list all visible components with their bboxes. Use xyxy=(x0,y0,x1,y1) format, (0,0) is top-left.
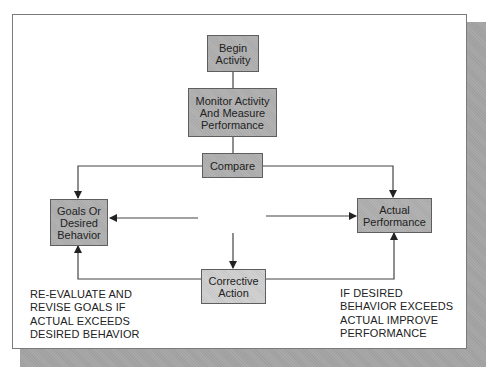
node-monitor-activity: Monitor Activity And Measure Performance xyxy=(188,88,277,137)
edge-compare-actual xyxy=(263,166,393,197)
node-corrective-action: Corrective Action xyxy=(201,269,266,304)
edge-corrective-actual xyxy=(266,233,394,279)
note-reevaluate-goals: RE-EVALUATE AND REVISE GOALS IF ACTUAL E… xyxy=(30,288,140,341)
edge-compare-goals xyxy=(78,166,202,198)
node-goals-desired-behavior: Goals Or Desired Behavior xyxy=(50,199,108,246)
edge-corrective-goals xyxy=(78,246,201,279)
node-compare: Compare xyxy=(202,153,263,178)
node-begin-activity: Begin Activity xyxy=(207,35,259,72)
node-actual-performance: Actual Performance xyxy=(357,198,432,233)
note-improve-performance: IF DESIRED BEHAVIOR EXCEEDS ACTUAL IMPRO… xyxy=(340,287,453,340)
